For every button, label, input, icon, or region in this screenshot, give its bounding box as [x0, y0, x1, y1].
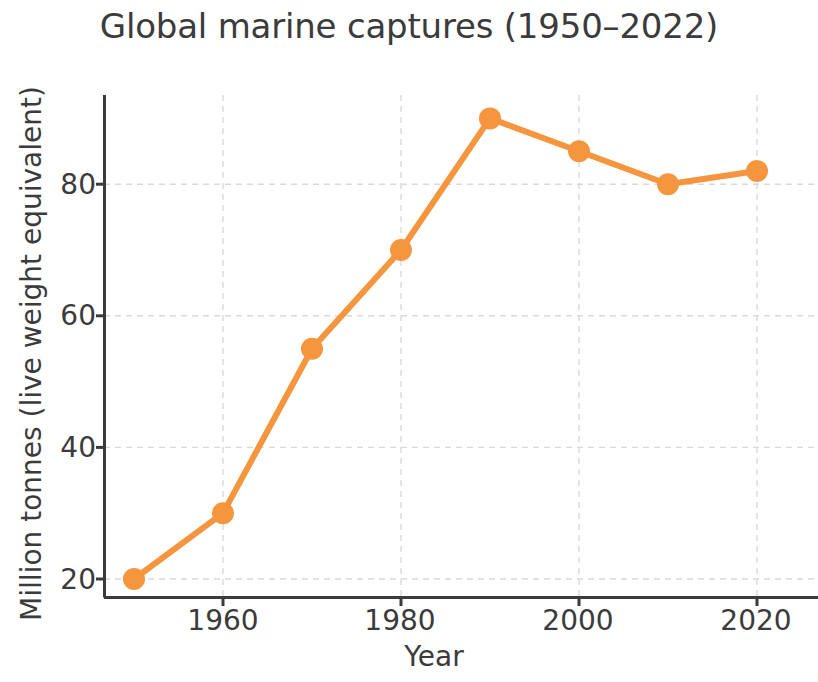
data-point-2010: [657, 173, 679, 195]
data-point-1970: [301, 338, 323, 360]
data-point-1960: [212, 502, 234, 524]
data-point-1950: [123, 568, 145, 590]
axis-ticks: [96, 184, 757, 606]
data-point-2020: [746, 160, 768, 182]
data-point-1980: [390, 239, 412, 261]
plot-area: [0, 0, 818, 682]
data-point-2000: [568, 140, 590, 162]
chart-figure: Global marine captures (1950–2022) Milli…: [0, 0, 818, 682]
data-point-1990: [479, 107, 501, 129]
